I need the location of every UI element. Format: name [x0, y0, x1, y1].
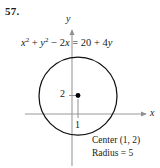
x-tick-label-1: 1	[75, 120, 80, 130]
y-axis-label: y	[66, 14, 70, 24]
textbook-figure-panel: 57. x2 + y2 − 2x = 20 + 4y y x 2 1 Cente…	[0, 0, 160, 168]
x-axis-label: x	[150, 108, 154, 118]
caption-center-line: Center (1, 2)	[92, 134, 140, 147]
figure-caption: Center (1, 2) Radius = 5	[92, 134, 140, 160]
caption-radius-line: Radius = 5	[92, 147, 140, 160]
y-tick-label-2: 2	[60, 89, 65, 99]
center-point-marker	[76, 93, 81, 98]
